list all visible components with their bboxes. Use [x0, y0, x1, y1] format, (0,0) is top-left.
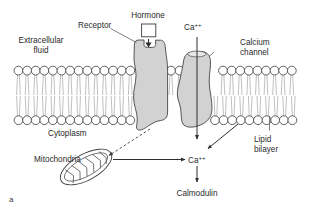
label-calcium-channel-line2: channel [240, 48, 269, 57]
label-calcium-ion-cytoplasm: Ca++ [188, 155, 206, 165]
label-calcium-channel-line1: Calcium [240, 38, 270, 47]
calcium-channel-protein-icon[interactable] [177, 51, 212, 127]
channel-to-calcium-arrow [208, 124, 238, 149]
label-receptor: Receptor [78, 21, 111, 30]
label-hormone: Hormone [131, 11, 165, 20]
label-extracellular-fluid-line2: fluid [33, 46, 48, 55]
receptor-protein-icon[interactable] [134, 40, 168, 130]
label-calcium-ion-cytoplasm-text: Ca [188, 156, 199, 165]
label-lipid-bilayer-line1: Lipid [254, 135, 272, 144]
label-extracellular-fluid-line1: Extracellular [18, 36, 63, 45]
label-calcium-ion-extracellular-sup: ++ [194, 22, 202, 28]
label-calcium-ion-cytoplasm-sup: ++ [198, 155, 206, 161]
hormone-square-icon[interactable] [142, 24, 156, 37]
label-mitochondria: Mitochondria [34, 155, 81, 164]
figure-letter: a [9, 195, 14, 204]
hormone-binding-arrow [145, 39, 151, 47]
leader-receptor [111, 29, 137, 43]
cell-signaling-diagram: Extracellular fluid Receptor Hormone Ca+… [0, 0, 310, 208]
label-lipid-bilayer-line2: bilayer [254, 145, 278, 154]
label-cytoplasm: Cytoplasm [48, 129, 87, 138]
label-calcium-ion-extracellular: Ca++ [184, 22, 202, 32]
leader-calcium-channel [209, 52, 214, 57]
label-calcium-ion-extracellular-text: Ca [184, 23, 195, 32]
mitochondrion-icon[interactable] [55, 142, 117, 192]
label-calmodulin: Calmodulin [177, 189, 218, 198]
receptor-to-mitochondria-arrow [109, 129, 150, 156]
